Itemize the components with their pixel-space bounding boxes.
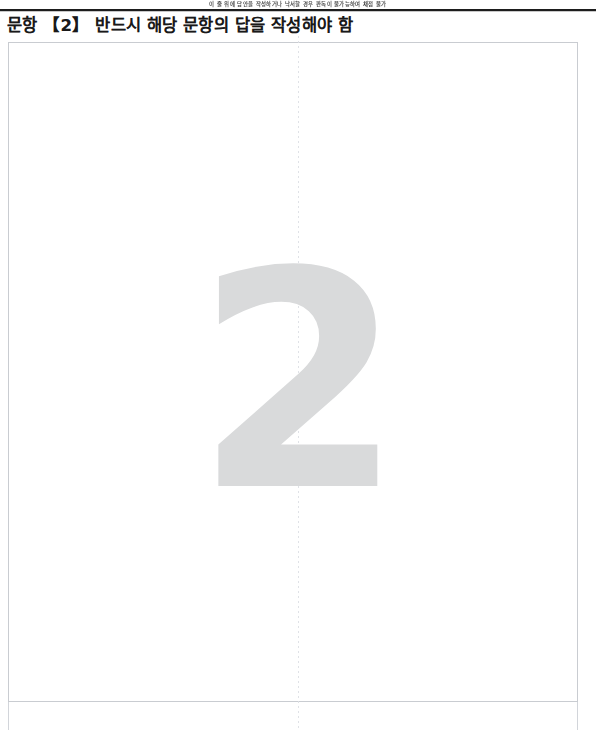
question-number-watermark: 2 (0, 233, 596, 533)
answer-sheet-page: 이 줄 위에 답안을 작성하거나 낙서할 경우 판독이 불가능하여 채점 불가 … (0, 0, 596, 730)
question-header-title: 문항 【2】 반드시 해당 문항의 답을 작성해야 함 (7, 14, 353, 38)
top-warning-notice: 이 줄 위에 답안을 작성하거나 낙서할 경우 판독이 불가능하여 채점 불가 (0, 0, 596, 8)
